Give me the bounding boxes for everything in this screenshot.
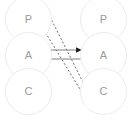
node-left-p-label: P [25,14,33,25]
node-right-c[interactable]: C [80,68,127,115]
node-right-c-label: C [99,86,107,97]
node-right-p-label: P [100,14,108,25]
node-left-c[interactable]: C [5,68,52,115]
node-left-c-label: C [24,86,32,97]
node-right-a-label: A [100,50,108,61]
diagram-canvas: P A C P A C [0,0,131,120]
node-left-a-label: A [25,50,33,61]
